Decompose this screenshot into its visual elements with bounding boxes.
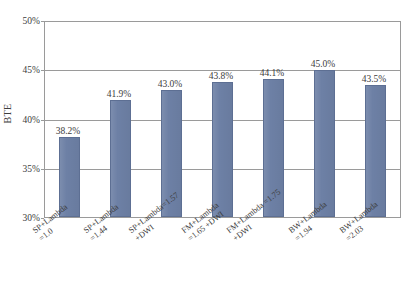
- y-tick-label-30: 30%: [0, 214, 40, 223]
- bar-sheen: [315, 71, 334, 216]
- bar-label-43-0: 43.0%: [142, 79, 198, 89]
- bar-fm-lambda-1-65-dwi: [212, 82, 233, 217]
- y-tick-label-50: 50%: [0, 17, 40, 26]
- y-tick-label-35: 35%: [0, 165, 40, 174]
- bar-label-45-0: 45.0%: [295, 59, 351, 69]
- bar-sp-lambda-1-44: [110, 100, 131, 217]
- bar-label-43-5: 43.5%: [346, 74, 402, 84]
- y-axis-title: BTE: [2, 91, 13, 137]
- bar-bw-lambda-1-94: [314, 70, 335, 217]
- plot-area: [44, 21, 401, 218]
- bar-label-41-9: 41.9%: [91, 89, 147, 99]
- bar-label-38-2: 38.2%: [40, 126, 96, 136]
- bar-sheen: [213, 83, 232, 216]
- bte-bar-chart: 50% 45% 40% 35% 30% BTE 38.2% 41.9% 43.0…: [0, 0, 415, 287]
- bar-bw-lambda-2-03: [365, 85, 386, 217]
- bar-sheen: [366, 86, 385, 216]
- bar-label-44-1: 44.1%: [244, 68, 300, 78]
- y-tick-label-45: 45%: [0, 66, 40, 75]
- bar-sheen: [111, 101, 130, 216]
- bar-label-43-8: 43.8%: [193, 71, 249, 81]
